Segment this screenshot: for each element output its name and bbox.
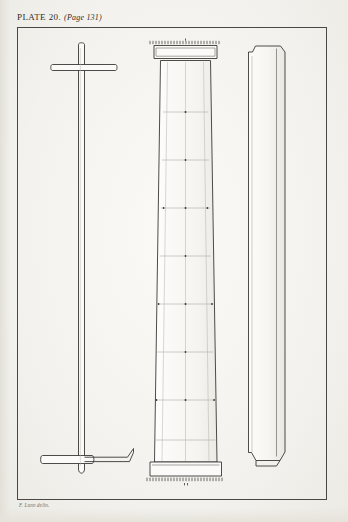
artist-credit: F. Lunn delin. — [19, 503, 50, 509]
staff-upper-crossbar — [51, 65, 117, 71]
plate-drawings — [0, 0, 348, 522]
staff-lower-crossbar — [41, 456, 94, 464]
figure-center-column — [147, 39, 222, 486]
staff-vertical-rod — [79, 43, 85, 473]
column-top-stipple-hatch — [150, 41, 219, 44]
column-base-centre-mark — [185, 483, 188, 485]
slab-foot-chamfer — [256, 461, 280, 467]
column-base-stipple-hatch — [147, 478, 222, 481]
slab-outline — [249, 46, 286, 461]
column-plinth — [150, 462, 222, 476]
figure-right-slab — [249, 46, 286, 466]
technical-drawings-svg — [0, 0, 348, 522]
plate-page: PLATE 20.(Page 131) — [0, 0, 348, 522]
column-capital — [154, 46, 217, 59]
figure-left-cross-staff — [41, 43, 134, 473]
